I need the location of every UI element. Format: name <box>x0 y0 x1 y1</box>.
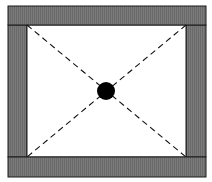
left-bar <box>8 25 27 157</box>
top-bar <box>8 6 206 25</box>
right-bar <box>186 25 206 157</box>
center-dot <box>97 82 115 100</box>
frame-diagram <box>0 0 212 182</box>
bottom-bar <box>8 157 206 177</box>
